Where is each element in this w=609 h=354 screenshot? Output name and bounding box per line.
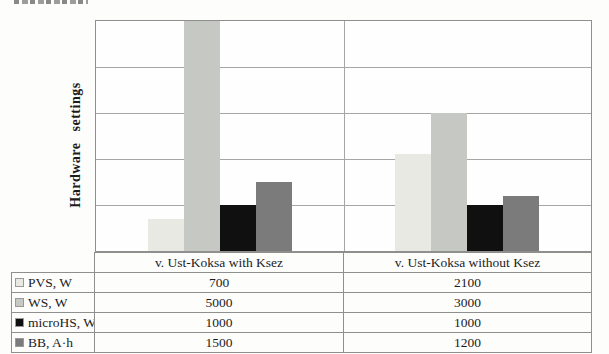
series-label: BB, A·h	[28, 336, 73, 350]
bar-ws-cat2	[431, 113, 467, 251]
plot-area	[95, 20, 592, 252]
series-label: microHS, W	[28, 316, 95, 330]
bar-pvs-cat1	[148, 219, 184, 251]
bar-microhs-cat2	[467, 205, 503, 251]
bar-ws-cat1	[184, 21, 220, 251]
value-cell-row3-cat2: 1000	[344, 313, 592, 333]
value-cell-row1-cat2: 2100	[344, 273, 592, 293]
category-divider-line	[344, 21, 345, 251]
legend-cell-bb: BB, A·h	[11, 333, 95, 353]
legend-swatch-icon	[15, 318, 24, 327]
bar-microhs-cat1	[220, 205, 256, 251]
legend-swatch-icon	[15, 338, 24, 347]
y-axis-label: Hardware settings	[62, 45, 90, 245]
legend-cell-microhs: microHS, W	[11, 313, 95, 333]
value-cell-row1-cat1: 700	[95, 273, 344, 293]
table-header-category-2: v. Ust-Koksa without Ksez	[344, 252, 592, 273]
legend-cell-ws: WS, W	[11, 293, 95, 313]
legend-swatch-icon	[15, 278, 24, 287]
series-label: PVS, W	[28, 276, 72, 290]
bar-bb-cat2	[503, 196, 539, 251]
data-table: v. Ust-Koksa with Ksez v. Ust-Koksa with…	[11, 252, 592, 353]
cropped-text-fragment	[14, 0, 88, 4]
table-header-category-1: v. Ust-Koksa with Ksez	[95, 252, 344, 273]
bar-bb-cat1	[256, 182, 292, 251]
figure-container: Hardware settings v. Ust-Koksa with Ksez…	[0, 0, 609, 354]
legend-cell-pvs: PVS, W	[11, 273, 95, 293]
value-cell-row2-cat1: 5000	[95, 293, 344, 313]
series-label: WS, W	[28, 296, 68, 310]
table-empty-corner	[11, 252, 95, 273]
value-cell-row2-cat2: 3000	[344, 293, 592, 313]
bar-pvs-cat2	[395, 154, 431, 251]
value-cell-row4-cat1: 1500	[95, 333, 344, 353]
legend-swatch-icon	[15, 298, 24, 307]
value-cell-row3-cat1: 1000	[95, 313, 344, 333]
value-cell-row4-cat2: 1200	[344, 333, 592, 353]
